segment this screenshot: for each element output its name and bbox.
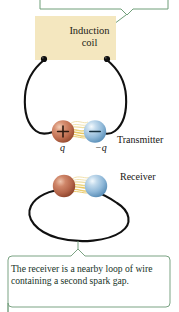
receiver-label: Receiver — [120, 171, 156, 182]
transmitter-label: Transmitter — [117, 134, 163, 145]
receiver-left-sphere — [53, 175, 75, 197]
negative-charge-label: −q — [95, 142, 107, 153]
positive-charge-label: q — [60, 142, 65, 153]
receiver-wire-loop — [29, 189, 128, 241]
induction-coil-label-line1: Induction — [0, 25, 179, 37]
transmitter-negative-charge — [84, 120, 106, 142]
receiver-right-sphere — [85, 175, 107, 197]
transmitter-wire — [25, 60, 126, 134]
caption-text: The receiver is a nearby loop of wire co… — [11, 263, 163, 288]
induction-coil-label-line2: coil — [0, 37, 179, 49]
transmitter-positive-charge — [52, 120, 74, 142]
